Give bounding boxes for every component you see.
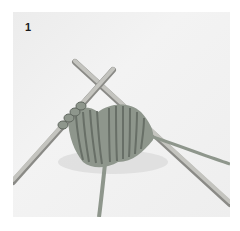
- knitting-illustration: [13, 12, 230, 217]
- knitting-photo: 1: [13, 12, 230, 217]
